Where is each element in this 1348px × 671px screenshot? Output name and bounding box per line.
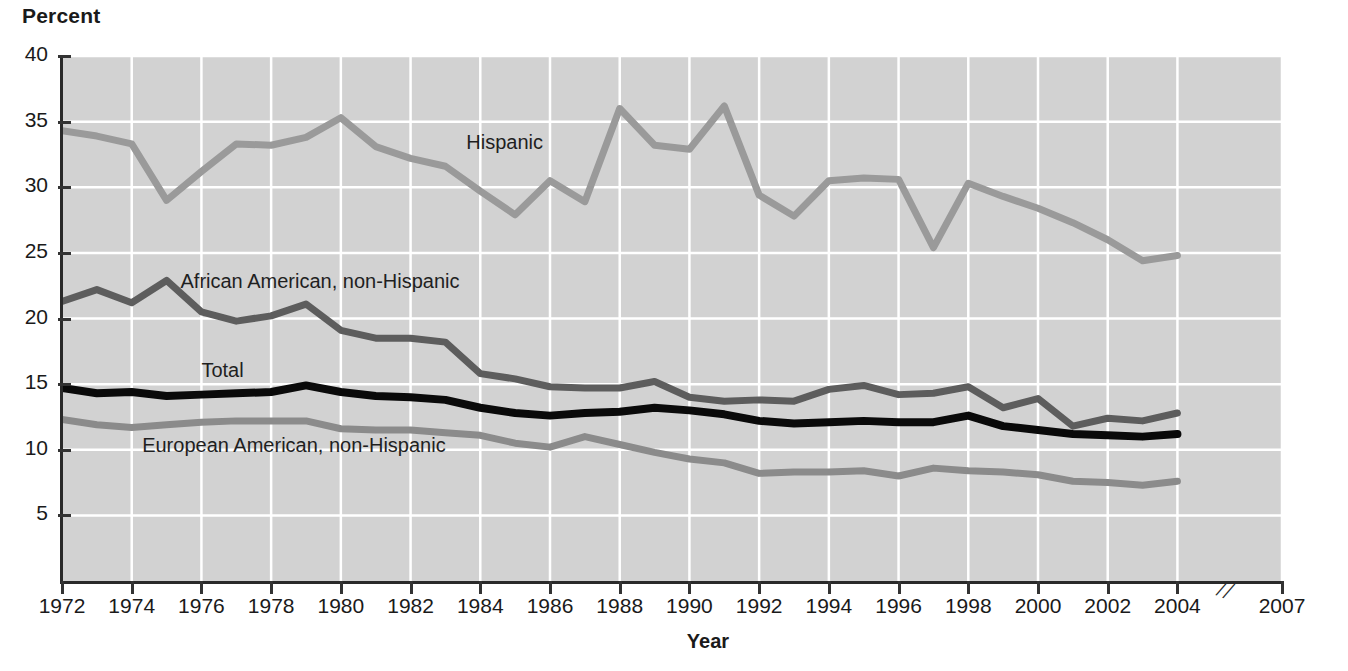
y-tick-label: 30 bbox=[2, 173, 48, 197]
y-tick-mark bbox=[58, 383, 71, 386]
x-tick-label: 2007 bbox=[1247, 594, 1317, 618]
x-tick-mark bbox=[1281, 581, 1284, 594]
x-axis-line bbox=[60, 581, 1283, 584]
y-axis-title: Percent bbox=[22, 4, 100, 28]
x-tick-mark bbox=[1037, 581, 1040, 594]
plot-area bbox=[62, 56, 1282, 581]
x-tick-label: 2002 bbox=[1073, 594, 1143, 618]
x-tick-label: 1980 bbox=[306, 594, 376, 618]
y-tick-mark bbox=[58, 186, 71, 189]
x-tick-label: 1976 bbox=[166, 594, 236, 618]
plot-svg bbox=[62, 56, 1282, 581]
x-tick-mark bbox=[967, 581, 970, 594]
x-tick-mark bbox=[898, 581, 901, 594]
x-tick-mark bbox=[479, 581, 482, 594]
y-tick-label: 25 bbox=[2, 239, 48, 263]
y-tick-mark bbox=[58, 514, 71, 517]
x-tick-mark bbox=[688, 581, 691, 594]
x-tick-label: 1986 bbox=[515, 594, 585, 618]
x-tick-mark bbox=[410, 581, 413, 594]
x-tick-label: 1996 bbox=[864, 594, 934, 618]
series-label: African American, non-Hispanic bbox=[181, 270, 460, 293]
x-tick-mark bbox=[758, 581, 761, 594]
x-tick-label: 1990 bbox=[654, 594, 724, 618]
x-tick-mark bbox=[61, 581, 64, 594]
y-tick-label: 15 bbox=[2, 370, 48, 394]
x-tick-mark bbox=[1107, 581, 1110, 594]
y-tick-mark bbox=[58, 252, 71, 255]
x-tick-label: 2004 bbox=[1142, 594, 1212, 618]
y-tick-mark bbox=[58, 318, 71, 321]
x-tick-mark bbox=[340, 581, 343, 594]
x-tick-label: 1992 bbox=[724, 594, 794, 618]
x-tick-mark bbox=[1176, 581, 1179, 594]
x-tick-mark bbox=[619, 581, 622, 594]
x-tick-label: 1974 bbox=[97, 594, 167, 618]
series-label: European American, non-Hispanic bbox=[142, 434, 446, 457]
y-tick-mark bbox=[58, 449, 71, 452]
series-label: Hispanic bbox=[466, 131, 543, 154]
chart-root: Percent 403530252015105 1972197419761978… bbox=[0, 0, 1348, 671]
x-tick-mark bbox=[200, 581, 203, 594]
x-tick-label: 2000 bbox=[1003, 594, 1073, 618]
x-tick-label: 1988 bbox=[585, 594, 655, 618]
x-axis-title: Year bbox=[0, 630, 1348, 653]
y-tick-label: 35 bbox=[2, 108, 48, 132]
y-tick-label: 20 bbox=[2, 305, 48, 329]
x-axis-title-text: Year bbox=[687, 630, 729, 652]
x-tick-mark bbox=[270, 581, 273, 594]
y-tick-label: 5 bbox=[2, 501, 48, 525]
x-tick-mark bbox=[828, 581, 831, 594]
y-tick-label: 40 bbox=[2, 42, 48, 66]
y-tick-label: 10 bbox=[2, 436, 48, 460]
series-label: Total bbox=[201, 359, 243, 382]
x-tick-mark bbox=[549, 581, 552, 594]
x-tick-label: 1982 bbox=[376, 594, 446, 618]
x-tick-mark bbox=[131, 581, 134, 594]
x-tick-label: 1984 bbox=[445, 594, 515, 618]
y-tick-mark bbox=[58, 55, 71, 58]
y-tick-mark bbox=[58, 121, 71, 124]
x-tick-label: 1972 bbox=[27, 594, 97, 618]
x-tick-label: 1994 bbox=[794, 594, 864, 618]
x-tick-label: 1978 bbox=[236, 594, 306, 618]
x-tick-label: 1998 bbox=[933, 594, 1003, 618]
